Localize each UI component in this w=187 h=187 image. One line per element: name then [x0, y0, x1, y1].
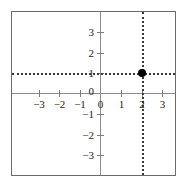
y-tick-label-2: 2 — [73, 48, 94, 59]
x-tick-label-3: 3 — [152, 99, 174, 110]
coordinate-plane-graph: −3 −2 −1 0 1 2 3 3 2 1 0 −1 −2 −3 — [0, 0, 187, 187]
plotted-point — [138, 69, 146, 77]
guide-line-vertical-x2 — [142, 12, 144, 175]
tick-mark-x-3 — [162, 90, 163, 97]
y-tick-label-0: 0 — [73, 86, 94, 97]
tick-mark-y--2 — [97, 135, 104, 136]
x-tick-label-2: 2 — [131, 99, 153, 110]
y-tick-label-3: 3 — [73, 27, 94, 38]
x-tick-label-1: 1 — [111, 99, 133, 110]
tick-mark-x--2 — [59, 90, 60, 97]
tick-mark-x--3 — [39, 90, 40, 97]
y-tick-label-1: 1 — [73, 68, 94, 79]
y-axis — [100, 12, 101, 175]
y-tick-label--3: −3 — [71, 150, 94, 161]
y-tick-label--2: −2 — [71, 130, 94, 141]
tick-mark-x-1 — [121, 90, 122, 97]
x-tick-label--2: −2 — [49, 99, 71, 110]
plot-frame: −3 −2 −1 0 1 2 3 3 2 1 0 −1 −2 −3 — [11, 11, 176, 176]
x-tick-label--3: −3 — [28, 99, 50, 110]
tick-mark-y-3 — [97, 32, 104, 33]
tick-mark-y--3 — [97, 155, 104, 156]
tick-mark-y-2 — [97, 53, 104, 54]
tick-mark-y--1 — [97, 114, 104, 115]
y-tick-label--1: −1 — [71, 109, 94, 120]
